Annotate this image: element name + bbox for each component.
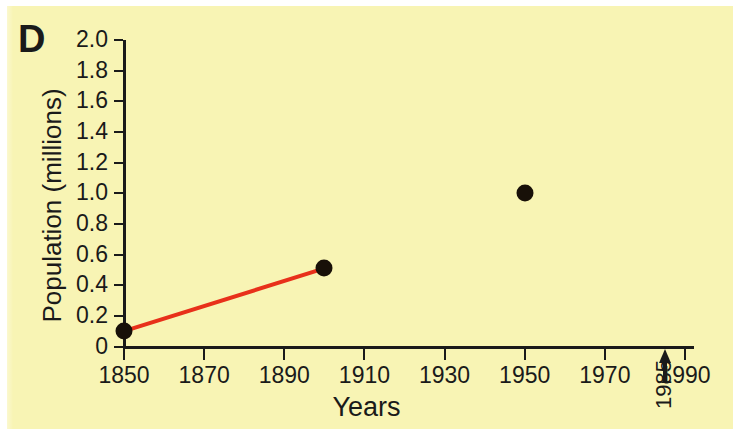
- plot-area: 00.20.40.60.81.01.21.41.61.82.0 18501870…: [0, 0, 733, 429]
- trend-line-segment: [124, 268, 324, 331]
- data-point-marker: [316, 260, 333, 277]
- figure-panel: D Population (millions) 00.20.40.60.81.0…: [0, 0, 733, 429]
- data-point-marker: [116, 323, 133, 340]
- data-point-marker: [516, 185, 533, 202]
- trend-line-group: [0, 0, 733, 429]
- x-axis-title: Years: [0, 392, 733, 423]
